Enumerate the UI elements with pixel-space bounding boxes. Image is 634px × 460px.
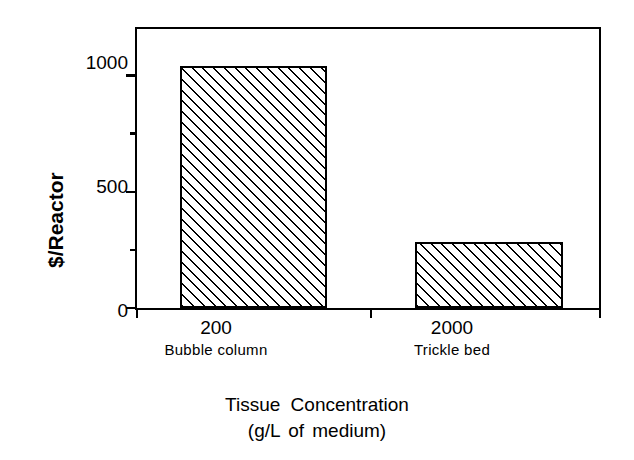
x-category-trickle-bed: 2000 Trickle bed [362,316,542,361]
plot-inner [137,29,599,308]
y-tick-minor-750 [130,132,137,135]
bar-trickle-bed [415,242,563,308]
x-category-value-200: 200 [126,316,306,339]
bar-bubble-column [180,66,327,308]
y-tick-label-500: 500 [54,177,128,196]
y-tick-label-1000: 1000 [54,53,128,72]
x-category-value-2000: 2000 [362,316,542,339]
y-tick-minor-250 [130,249,137,252]
x-category-bubble-column: 200 Bubble column [126,316,306,361]
x-tick-right [599,308,602,318]
x-category-name-bubble-column: Bubble column [126,339,306,361]
x-axis-title-line1: Tissue Concentration [0,392,634,418]
chart-figure: $/Reactor 1000 500 0 200 Bubble column [0,0,634,460]
x-axis-title-line2: (g/L of medium) [0,418,634,444]
y-tick-label-group: 1000 500 0 [52,0,128,340]
y-tick-major-1000 [126,74,137,77]
y-tick-label-0: 0 [54,301,128,320]
y-axis-title-container: $/Reactor [0,0,60,320]
x-axis-title: Tissue Concentration (g/L of medium) [0,392,634,444]
x-category-name-trickle-bed: Trickle bed [362,339,542,361]
plot-area [135,27,601,310]
y-tick-major-500 [126,191,137,194]
